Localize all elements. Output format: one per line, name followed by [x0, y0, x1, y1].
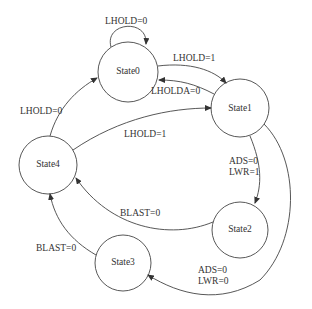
label-s1-s0: LHOLDA=0 — [151, 86, 200, 97]
label-s1-s3-line2: LWR=0 — [198, 276, 229, 287]
state1-label: State1 — [220, 103, 260, 114]
transition-s2-s4 — [76, 178, 213, 230]
label-s2-s4: BLAST=0 — [120, 208, 160, 219]
label-s1-s2-line1: ADS=0 — [229, 156, 258, 167]
state2-label: State2 — [220, 224, 260, 235]
transition-s0-self — [110, 26, 146, 47]
label-s0-s1: LHOLD=1 — [173, 53, 215, 64]
label-s4-s1: LHOLD=1 — [124, 129, 166, 140]
label-s1-s2-line2: LWR=1 — [229, 167, 260, 178]
state-diagram-canvas — [0, 0, 312, 309]
state0-label: State0 — [108, 66, 148, 77]
state3-label: State3 — [103, 257, 143, 268]
label-s3-s4: BLAST=0 — [36, 243, 76, 254]
label-s0-self: LHOLD=0 — [105, 16, 147, 27]
label-s4-s0: LHOLD=0 — [20, 106, 62, 117]
label-s1-s3-line1: ADS=0 — [198, 265, 227, 276]
state4-label: State4 — [28, 159, 68, 170]
